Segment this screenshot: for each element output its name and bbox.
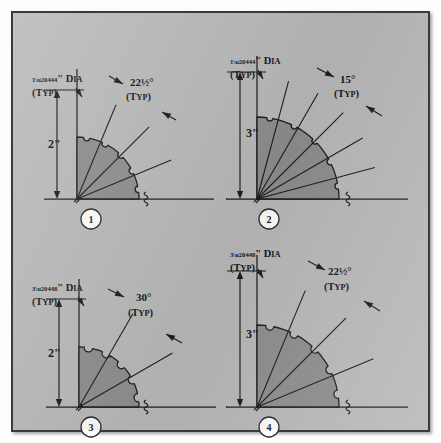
panel-1-drawing: 1\u20444" DIA (TYP) 2" 22½° (TYP) 1 <box>24 24 234 232</box>
panel-3-number: 3 <box>89 422 94 433</box>
panel-2-angle-label: 15° <box>340 73 355 85</box>
panel-1-number: 1 <box>89 214 94 225</box>
detail-panel-2: 1\u20444" DIA (TYP) 3" 15° (TYP) 2 <box>222 24 432 232</box>
panel-2-angle-typ: (TYP) <box>334 88 359 100</box>
detail-panel-3: 3\u20448" DIA (TYP) 2" 30° (TYP) 3 <box>24 231 234 439</box>
panel-1-badge: 1 <box>81 209 101 229</box>
panel-4-badge: 4 <box>259 417 279 437</box>
panel-3-drawing: 3\u20448" DIA (TYP) 2" 30° (TYP) 3 <box>24 231 234 439</box>
panel-2-drawing: 1\u20444" DIA (TYP) 3" 15° (TYP) 2 <box>222 24 432 232</box>
panel-1-dia-line1: 1\u20444" DIA <box>32 73 83 84</box>
drawing-plate: 1\u20444" DIA (TYP) 2" 22½° (TYP) 1 <box>11 11 430 432</box>
panel-1-angle-typ: (TYP) <box>126 91 151 103</box>
panel-3-dia-line1: 3\u20448" DIA <box>32 282 83 293</box>
panel-1-radius-label: 2" <box>48 137 61 151</box>
panel-4-radius-label: 3" <box>246 327 259 341</box>
panel-4-drawing: 3\u20448" DIA (TYP) 3" 22½° (TYP) 4 <box>222 231 432 439</box>
panel-3-radius-label: 2" <box>48 346 61 360</box>
panel-4-dia-line2: (TYP) <box>230 262 255 274</box>
panel-1-dia-line2: (TYP) <box>32 87 57 99</box>
panel-4-number: 4 <box>267 422 272 433</box>
panel-3-badge: 3 <box>81 417 101 437</box>
panel-4-angle-label: 22½° <box>328 265 352 277</box>
panel-2-dia-line1: 1\u20444" DIA <box>230 55 281 66</box>
panel-1-angle-label: 22½° <box>130 76 154 88</box>
panel-2-badge: 2 <box>259 209 279 229</box>
panel-4-dia-line1: 3\u20448" DIA <box>230 248 281 259</box>
panel-2-number: 2 <box>267 214 272 225</box>
detail-panel-1: 1\u20444" DIA (TYP) 2" 22½° (TYP) 1 <box>24 24 234 232</box>
illustration-sheet: 1\u20444" DIA (TYP) 2" 22½° (TYP) 1 <box>0 0 441 443</box>
panel-2-radius-label: 3" <box>246 126 259 140</box>
panel-2-dia-line2: (TYP) <box>230 69 255 81</box>
detail-panel-4: 3\u20448" DIA (TYP) 3" 22½° (TYP) 4 <box>222 231 432 439</box>
panel-3-dia-line2: (TYP) <box>32 296 57 308</box>
panel-3-angle-label: 30° <box>136 291 151 303</box>
panel-3-angle-typ: (TYP) <box>128 307 153 319</box>
panel-4-angle-typ: (TYP) <box>324 281 349 293</box>
